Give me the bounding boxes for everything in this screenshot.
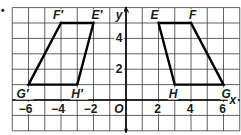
y-tick-label: 4	[116, 31, 123, 45]
bullet: •	[1, 5, 5, 16]
vertex-label: E′	[92, 8, 104, 22]
vertex-label: F	[189, 8, 197, 22]
axes	[12, 8, 240, 133]
vertex-label: E	[151, 8, 160, 22]
vertex-label: G′	[17, 87, 30, 101]
vertex-label: G	[222, 87, 231, 101]
x-tick-label: −6	[19, 102, 33, 116]
x-tick-label: 6	[219, 102, 226, 116]
x-tick-label: 2	[154, 102, 161, 116]
vertex-label: H′	[71, 87, 84, 101]
origin-label: O	[114, 102, 124, 116]
x-tick-label: −2	[84, 102, 98, 116]
x-tick-label: 4	[187, 102, 194, 116]
y-tick-label: 2	[116, 62, 123, 76]
x-tick-label: −4	[51, 102, 65, 116]
vertex-label: F′	[53, 8, 64, 22]
y-axis-label: y	[115, 8, 124, 22]
vertex-label: H	[169, 87, 178, 101]
coordinate-grid-figure: • −6−4−224624OyxEFGHE′F′G′H′	[0, 0, 241, 135]
